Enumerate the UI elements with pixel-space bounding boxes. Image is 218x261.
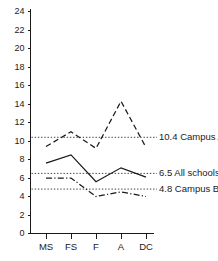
series-annotations-group: 10.4 Campus A6.5 All schools4.8 Campus B [159,131,218,194]
y-tick-label: 8 [19,154,24,164]
y-tick-label: 12 [14,117,24,127]
y-axis-tick-labels: 024681012141618202224 [14,6,24,238]
series-annotation-label: 6.5 All schools [159,167,218,178]
data-series-group [46,101,146,196]
y-tick-label: 14 [14,99,24,109]
x-tick-label: F [93,241,99,252]
series-annotation-label: 10.4 Campus A [159,131,218,142]
series-line-campus-a [46,101,146,148]
x-tick-label: DC [139,241,153,252]
y-tick-label: 2 [19,210,24,220]
series-annotation-label: 4.8 Campus B [159,183,218,194]
y-tick-label: 10 [14,136,24,146]
x-axis-tick-labels: MSFSFADC [39,241,153,252]
y-tick-label: 18 [14,62,24,72]
y-tick-label: 16 [14,80,24,90]
chart-plot-area: 024681012141618202224 MSFSFADC 10.4 Camp… [0,0,218,261]
y-tick-label: 20 [14,43,24,53]
y-tick-label: 6 [19,173,24,183]
x-tick-label: A [118,241,125,252]
y-tick-label: 4 [19,191,24,201]
reference-lines-group [32,137,158,189]
x-tick-label: FS [65,241,77,252]
series-line-campus-b [46,178,146,197]
line-chart: 024681012141618202224 MSFSFADC 10.4 Camp… [0,0,218,261]
x-tick-label: MS [39,241,53,252]
x-axis-tick-marks [46,234,146,239]
y-tick-label: 24 [14,6,24,16]
y-tick-label: 0 [19,228,24,238]
y-tick-label: 22 [14,25,24,35]
